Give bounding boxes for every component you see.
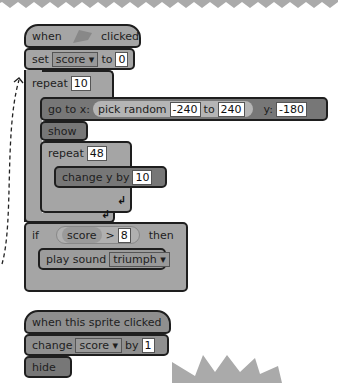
spiky-decoration-icon: [170, 350, 290, 383]
repeat-count-input[interactable]: 48: [87, 146, 107, 161]
hat-label: when this sprite clicked: [32, 316, 162, 329]
hat-when-label: when: [32, 30, 62, 43]
change-y-block[interactable]: change y by 10: [54, 166, 167, 188]
hat-clicked-label: clicked: [101, 30, 139, 43]
variable-dropdown[interactable]: score ▾: [75, 338, 122, 353]
repeat-inner-header: repeat 48: [42, 143, 122, 163]
pick-random-reporter[interactable]: pick random -240 to 240: [93, 101, 253, 117]
when-sprite-clicked-hat[interactable]: when this sprite clicked: [24, 310, 171, 334]
show-label: show: [48, 125, 76, 138]
go-to-xy-block[interactable]: go to x: pick random -240 to 240 y: -180: [40, 97, 328, 121]
zigzag-top-border: [0, 0, 338, 10]
loop-arrow-icon: ↲: [117, 194, 126, 207]
if-header: if score > 8 then: [26, 224, 186, 246]
green-flag-icon: [70, 28, 93, 44]
set-score-block[interactable]: set score ▾ to 0: [24, 48, 135, 70]
compare-input[interactable]: 8: [118, 228, 131, 243]
hide-label: hide: [32, 361, 56, 374]
change-y-label: change y by: [62, 171, 129, 184]
random-from-input[interactable]: -240: [170, 102, 201, 117]
comparison-reporter[interactable]: score > 8: [56, 226, 140, 244]
to-label: to: [101, 53, 112, 66]
repeat-label: repeat: [48, 147, 84, 160]
when-flag-clicked-hat[interactable]: when clicked: [24, 24, 141, 48]
random-to-label: to: [204, 103, 215, 116]
pick-random-label: pick random: [98, 103, 167, 116]
set-label: set: [32, 53, 49, 66]
variable-dropdown[interactable]: score ▾: [52, 52, 99, 67]
repeat-label: repeat: [32, 77, 68, 90]
score-reporter[interactable]: score: [62, 227, 102, 243]
y-input[interactable]: -180: [276, 102, 307, 117]
change-value-input[interactable]: 1: [142, 338, 155, 353]
repeat-outer-header: repeat 10: [26, 72, 106, 94]
play-sound-label: play sound: [46, 253, 106, 266]
play-sound-block[interactable]: play sound triumph ▾: [38, 248, 166, 270]
if-label: if: [32, 229, 39, 242]
operator-label: >: [106, 229, 115, 242]
y-label: y:: [264, 103, 273, 116]
change-y-input[interactable]: 10: [132, 170, 152, 185]
then-label: then: [149, 229, 174, 242]
random-to-input[interactable]: 240: [218, 102, 245, 117]
change-score-block[interactable]: change score ▾ by 1: [24, 334, 169, 356]
loop-arrow-icon: ↲: [101, 208, 110, 221]
change-label: change: [32, 339, 72, 352]
value-input[interactable]: 0: [115, 52, 128, 67]
repeat-count-input[interactable]: 10: [71, 76, 91, 91]
show-block[interactable]: show: [40, 121, 88, 141]
hide-block[interactable]: hide: [24, 356, 72, 378]
sound-dropdown[interactable]: triumph ▾: [109, 252, 170, 267]
by-label: by: [125, 339, 139, 352]
goto-label: go to x:: [48, 103, 90, 116]
